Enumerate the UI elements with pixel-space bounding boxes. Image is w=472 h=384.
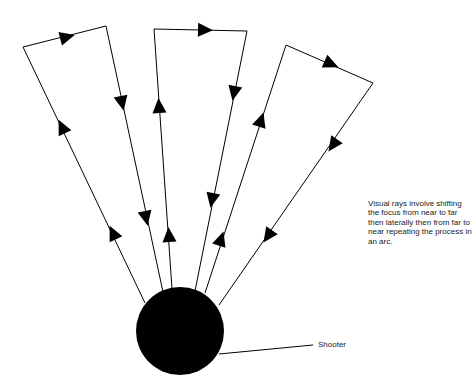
arrowhead-icon xyxy=(114,95,131,113)
visual-rays-diagram: Visual rays involve shifting the focus f… xyxy=(0,0,472,384)
direction-arrows xyxy=(52,23,343,248)
diagram-canvas xyxy=(0,0,472,384)
arrowhead-icon xyxy=(58,28,76,45)
ray-right-loop xyxy=(205,45,373,305)
arrowhead-icon xyxy=(226,85,243,102)
arrowhead-icon xyxy=(323,135,343,155)
arrowhead-icon xyxy=(212,229,230,248)
shooter-label: Shooter xyxy=(318,340,346,349)
arrowhead-icon xyxy=(138,210,155,228)
arrowhead-icon xyxy=(52,117,71,137)
arrowhead-icon xyxy=(151,98,166,114)
ray-left-loop xyxy=(23,26,163,303)
ray-middle-loop xyxy=(154,29,247,291)
arrowhead-icon xyxy=(258,226,278,246)
arrowhead-icon xyxy=(322,55,341,74)
arrowhead-icon xyxy=(161,227,176,243)
arrowhead-icon xyxy=(252,110,270,129)
shooter-leader-line xyxy=(219,345,313,354)
arrowhead-icon xyxy=(103,223,122,243)
shooter-circle xyxy=(136,287,224,375)
caption-text: Visual rays involve shifting the focus f… xyxy=(368,199,472,246)
ray-paths xyxy=(23,26,373,305)
arrowhead-icon xyxy=(198,23,213,37)
